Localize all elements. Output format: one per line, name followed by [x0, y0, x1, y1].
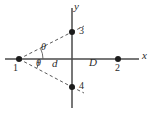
point-1-label: 1 [13, 63, 18, 73]
theta-upper-label: θ [41, 42, 46, 52]
point-3-label: 3 [79, 26, 84, 36]
point-2-label: 2 [115, 63, 120, 73]
ray-point1-to-point4 [19, 59, 72, 87]
y-axis-label: y [74, 1, 79, 12]
geometry-figure: x y 1 2 3 4 θ θ d D [0, 0, 153, 114]
point-4-dot [69, 84, 75, 90]
point-3-dot [69, 29, 75, 35]
distance-D-label: D [89, 57, 97, 68]
figure-canvas [0, 0, 153, 114]
distance-d-label: d [52, 58, 58, 69]
x-axis-label: x [142, 50, 147, 61]
point-4-label: 4 [79, 81, 84, 91]
theta-lower-label: θ [36, 58, 41, 68]
